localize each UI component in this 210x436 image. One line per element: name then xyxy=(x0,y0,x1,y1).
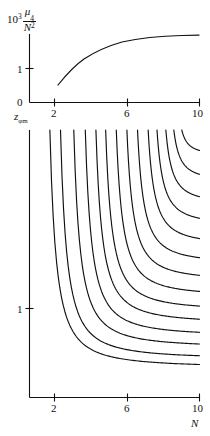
bottom-panel-xtick-label-10: 10 xyxy=(192,402,203,414)
curve-11 xyxy=(157,130,200,218)
curve-6 xyxy=(106,130,200,306)
curve-7 xyxy=(116,130,199,291)
curve-1 xyxy=(50,130,200,365)
ylabel-prefix: 10 xyxy=(7,14,18,25)
top-panel-y-axis-label: 103 μ4 N2 xyxy=(7,6,36,34)
bottom-panel-y-axis-label: zφm xyxy=(14,111,28,122)
top-panel-ytick-label-0: 0 xyxy=(17,96,23,108)
ylabel-fraction: μ4 N2 xyxy=(23,6,36,34)
bottom-panel-ytick-label-1: 1 xyxy=(17,303,23,315)
zlabel-subscript: φm xyxy=(18,117,28,125)
figure-container: 103 μ4 N2 1 0 2 6 10 zφm 1 2 6 10 N xyxy=(0,0,210,436)
curve-3 xyxy=(74,130,200,344)
top-panel-xtick-label-10: 10 xyxy=(192,107,203,119)
bottom-panel-x-axis-label: N xyxy=(191,418,198,429)
curve-13 xyxy=(174,130,200,174)
bottom-panel-xtick-label-2: 2 xyxy=(51,402,57,414)
curve-14 xyxy=(182,130,200,150)
top-panel-curve xyxy=(58,35,199,85)
ylabel-numerator: μ4 xyxy=(24,6,35,20)
bottom-panel-plot xyxy=(0,126,210,436)
curve-10 xyxy=(148,130,199,239)
top-panel-ytick-label-1: 1 xyxy=(17,63,23,75)
curve-8 xyxy=(127,130,200,275)
top-panel-xtick-label-6: 6 xyxy=(124,107,130,119)
bottom-panel-curve-family xyxy=(50,130,200,365)
ylabel-n-exponent: 2 xyxy=(31,21,35,30)
ylabel-denominator: N2 xyxy=(23,22,36,34)
top-panel-xtick-label-2: 2 xyxy=(51,107,57,119)
ylabel-exponent: 3 xyxy=(18,13,22,21)
bottom-panel-xtick-label-6: 6 xyxy=(124,402,130,414)
